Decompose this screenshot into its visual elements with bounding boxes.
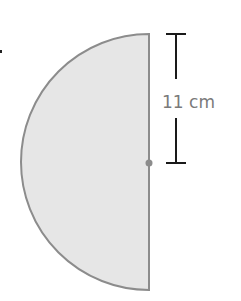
stray-mark — [0, 50, 2, 53]
radius-label: 11 cm — [162, 92, 215, 112]
semicircle-shape — [21, 34, 149, 290]
semicircle-diagram: 11 cm — [0, 0, 241, 301]
center-dot — [146, 160, 153, 167]
